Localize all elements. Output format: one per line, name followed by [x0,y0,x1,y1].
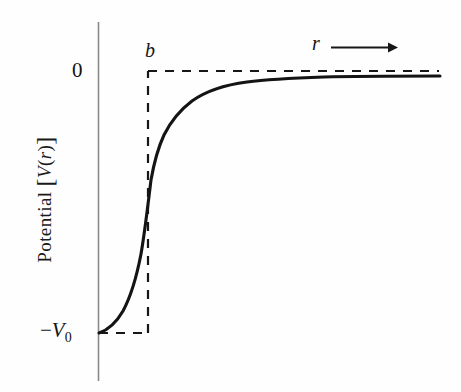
bracket-close: ] [32,136,58,144]
y-axis-label-prefix: Potential [34,186,55,262]
potential-figure: Potential [V(r)] 0 −V0 b r [0,0,461,392]
potential-curve [99,76,440,333]
paren-close: ) [34,145,55,152]
radius-b-label: b [145,40,155,60]
potential-symbol: V [34,166,55,178]
well-depth-subscript: 0 [65,330,72,345]
minus-sign: − [40,318,52,342]
y-tick-label-well-depth: −V0 [40,320,72,345]
bracket-open: [ [32,178,58,186]
radius-symbol: r [34,151,55,159]
r-arrow-head [388,43,398,53]
well-depth-symbol: V [52,318,65,342]
y-axis-label-text: Potential [V(r)] [32,50,59,350]
paren-open: ( [34,159,55,166]
y-tick-label-zero: 0 [72,60,83,81]
r-axis-label: r [312,33,320,53]
